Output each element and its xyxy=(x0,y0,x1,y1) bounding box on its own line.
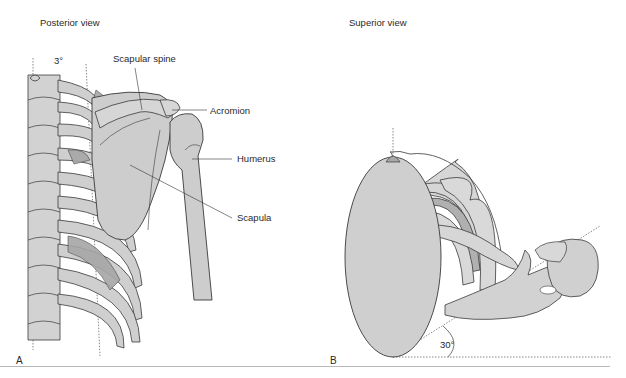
humerus-shape xyxy=(170,114,212,300)
caption-divider xyxy=(0,366,610,367)
skull-shape xyxy=(345,157,441,357)
panel-a-letter: A xyxy=(16,355,23,366)
label-acromion: Acromion xyxy=(210,105,250,116)
panel-a-drawing xyxy=(28,58,232,356)
anatomy-illustration xyxy=(0,0,626,378)
label-scapular-spine: Scapular spine xyxy=(113,53,176,64)
panel-b-letter: B xyxy=(330,355,337,366)
panel-b-drawing xyxy=(345,128,612,358)
panel-b-angle-label: 30° xyxy=(440,339,454,350)
label-scapula: Scapula xyxy=(237,212,271,223)
panel-a-angle-label: 3° xyxy=(54,55,63,66)
panel-a-title: Posterior view xyxy=(40,17,100,28)
panel-b-title: Superior view xyxy=(349,17,407,28)
label-humerus: Humerus xyxy=(237,153,276,164)
